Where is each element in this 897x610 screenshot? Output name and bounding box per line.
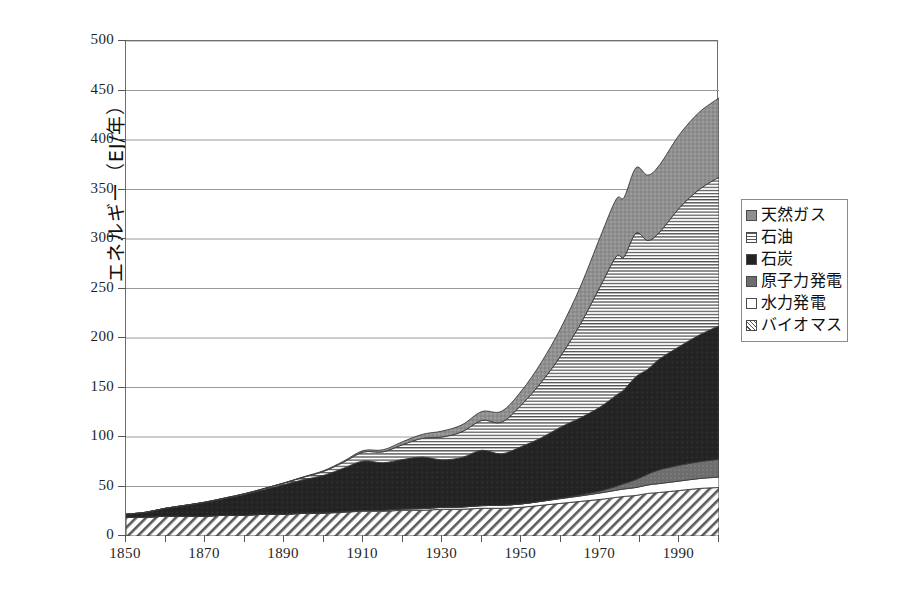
x-axis-tick-label: 1850 — [90, 545, 160, 561]
legend-item-石炭[interactable]: 石炭 — [746, 248, 842, 270]
legend-swatch-oil — [746, 232, 757, 243]
x-axis-tick-label: 1890 — [248, 545, 318, 561]
x-axis-tick-mark — [362, 535, 363, 542]
legend-swatch-coal — [746, 254, 757, 265]
x-axis-tick-mark — [244, 535, 245, 542]
x-axis-tick-mark — [125, 535, 126, 542]
chart-legend: 天然ガス石油石炭原子力発電水力発電バイオマス — [741, 199, 848, 342]
y-axis-tick-labels: 050100150200250300350400450500 — [64, 0, 114, 610]
legend-item-天然ガス[interactable]: 天然ガス — [746, 204, 842, 226]
y-axis-tick-label: 400 — [68, 131, 114, 146]
x-axis-tick-label: 1970 — [564, 545, 634, 561]
legend-item-label: 石炭 — [761, 250, 793, 268]
x-axis-tick-mark — [323, 535, 324, 542]
y-axis-tick-label: 0 — [68, 527, 114, 542]
legend-item-label: 原子力発電 — [761, 272, 842, 290]
x-axis-tick-mark — [520, 535, 521, 542]
legend-item-水力発電[interactable]: 水力発電 — [746, 292, 842, 314]
y-axis-tick-mark — [118, 139, 126, 140]
x-axis-tick-mark — [678, 535, 679, 542]
x-axis-tick-mark — [402, 535, 403, 542]
x-axis-tick-mark — [481, 535, 482, 542]
y-axis-tick-label: 100 — [68, 428, 114, 443]
legend-item-原子力発電[interactable]: 原子力発電 — [746, 270, 842, 292]
x-axis-tick-mark — [165, 535, 166, 542]
legend-item-バイオマス[interactable]: バイオマス — [746, 314, 842, 336]
plot-area — [125, 40, 718, 535]
y-axis-tick-label: 150 — [68, 379, 114, 394]
y-axis-tick-label: 450 — [68, 82, 114, 97]
x-axis-tick-mark — [639, 535, 640, 542]
y-axis-tick-mark — [118, 90, 126, 91]
y-axis-tick-mark — [118, 40, 126, 41]
y-axis-tick-mark — [118, 189, 126, 190]
x-axis-tick-label: 1990 — [643, 545, 713, 561]
x-axis-tick-label: 1930 — [406, 545, 476, 561]
legend-item-label: バイオマス — [761, 316, 842, 334]
energy-stacked-area-chart: エネルギー（EJ/年） 0501001502002503003504004505… — [0, 0, 897, 610]
y-axis-tick-mark — [118, 238, 126, 239]
legend-item-label: 石油 — [761, 228, 793, 246]
x-axis-tick-mark — [718, 535, 719, 542]
legend-swatch-biomass — [746, 320, 757, 331]
x-axis-tick-mark — [599, 535, 600, 542]
y-axis-tick-mark — [118, 288, 126, 289]
x-axis-tick-mark — [283, 535, 284, 542]
legend-swatch-hydro — [746, 298, 757, 309]
x-axis-tick-label: 1910 — [327, 545, 397, 561]
legend-item-石油[interactable]: 石油 — [746, 226, 842, 248]
legend-item-label: 水力発電 — [761, 294, 826, 312]
y-axis-tick-mark — [118, 387, 126, 388]
y-axis-tick-label: 250 — [68, 280, 114, 295]
x-axis-tick-label: 1950 — [485, 545, 555, 561]
y-axis-tick-mark — [118, 337, 126, 338]
legend-swatch-nuclear — [746, 276, 757, 287]
y-axis-tick-label: 200 — [68, 329, 114, 344]
y-axis-tick-label: 50 — [68, 478, 114, 493]
x-axis-tick-mark — [441, 535, 442, 542]
y-axis-tick-mark — [118, 436, 126, 437]
y-axis-tick-label: 350 — [68, 181, 114, 196]
y-axis-tick-label: 300 — [68, 230, 114, 245]
y-axis-tick-label: 500 — [68, 32, 114, 47]
x-axis-tick-mark — [204, 535, 205, 542]
y-axis-tick-mark — [118, 486, 126, 487]
legend-swatch-gas — [746, 210, 757, 221]
x-axis-tick-mark — [560, 535, 561, 542]
x-axis-tick-label: 1870 — [169, 545, 239, 561]
stacked-area-series-group — [126, 41, 719, 536]
legend-item-label: 天然ガス — [761, 206, 826, 224]
